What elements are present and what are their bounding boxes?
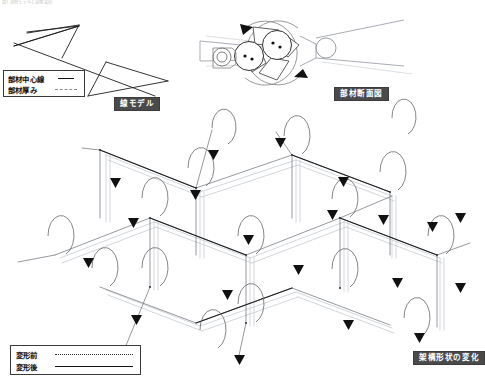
frame-member (150, 218, 246, 255)
frame-member (196, 288, 292, 323)
direction-arrow-icon (208, 150, 219, 160)
rotation-arc (428, 216, 454, 254)
legend-label: 変形後 (16, 361, 53, 372)
direction-arrow-icon (378, 215, 389, 225)
frame-node (99, 149, 101, 151)
direction-arrow-icon (243, 235, 254, 245)
direction-arrow-icon (338, 177, 349, 187)
frame-node (339, 217, 341, 219)
frame-node (245, 254, 247, 256)
dotted-line-icon (53, 354, 135, 355)
frame-node (149, 286, 151, 288)
rotation-arc (92, 248, 118, 286)
frame-node (389, 191, 391, 193)
direction-arrow-icon (275, 138, 286, 148)
rotation-arc (142, 178, 168, 216)
frame-node (339, 287, 341, 289)
direction-arrow-icon (190, 190, 201, 200)
direction-arrow-icon (455, 283, 466, 293)
direction-arrow-icon (455, 213, 466, 223)
direction-arrow-icon (343, 320, 354, 330)
caption-frame-change: 架構形状の変化 (413, 351, 485, 365)
legend-row: 変形後 (16, 361, 135, 373)
rotation-arc (142, 248, 168, 286)
frame-member (292, 155, 390, 192)
frame-node (149, 217, 151, 219)
legend-label: 変形前 (16, 349, 53, 360)
direction-arrow-icon (414, 333, 425, 343)
frame-node (291, 154, 293, 156)
rotation-arc (404, 298, 430, 336)
direction-arrow-icon (327, 210, 338, 220)
rotation-arc (392, 99, 416, 134)
legend-frame-change: 変形前 変形後 (10, 345, 141, 375)
direction-arrow-icon (234, 355, 245, 365)
direction-arrow-icon (131, 315, 142, 325)
rotation-arc (380, 152, 406, 190)
frame-node (195, 187, 197, 189)
rotation-arc (212, 109, 236, 144)
frame-node (436, 254, 438, 256)
direction-arrow-icon (293, 265, 304, 275)
direction-arrow-icon (222, 290, 233, 300)
rotation-arc (200, 310, 226, 348)
direction-arrow-icon (110, 178, 121, 188)
frame-member (340, 218, 437, 255)
rotation-arc (284, 116, 310, 154)
rotation-arc (48, 216, 74, 254)
frame-node (245, 322, 247, 324)
direction-arrow-icon (392, 278, 403, 288)
legend-row: 変形前 (16, 349, 135, 361)
rotation-arc (238, 216, 264, 254)
solid-line-icon (53, 366, 135, 367)
rotation-arc (332, 249, 358, 287)
